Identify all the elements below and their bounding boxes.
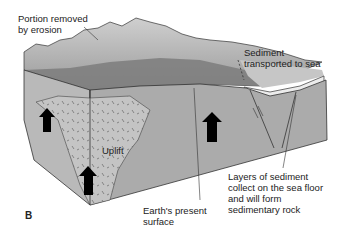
panel-label: B	[25, 210, 32, 221]
label-uplift: Uplift	[102, 145, 124, 156]
label-sediment-transport: Sediment transported to sea	[244, 47, 321, 69]
label-present-surface: Earth's present surface	[143, 205, 207, 227]
label-erosion: Portion removed by erosion	[18, 13, 88, 35]
label-sedimentary-layers: Layers of sediment collect on the sea fl…	[228, 171, 323, 215]
